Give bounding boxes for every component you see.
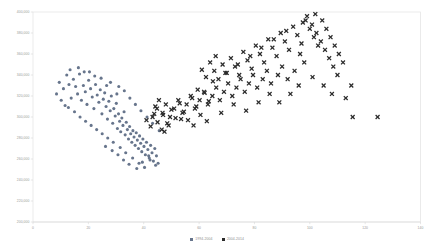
data-point (112, 141, 115, 144)
data-point (99, 88, 102, 91)
data-point (74, 85, 77, 88)
data-point (141, 161, 144, 164)
data-point (124, 133, 127, 136)
data-point (135, 131, 138, 134)
data-point (138, 134, 141, 137)
data-point (110, 94, 113, 97)
data-point (76, 92, 79, 95)
data-point (127, 163, 130, 166)
data-point (147, 154, 150, 157)
data-point (84, 120, 87, 123)
data-point (117, 112, 120, 115)
data-point (145, 141, 148, 144)
data-point (143, 166, 146, 169)
x-axis-tick-label: 40 (142, 226, 146, 230)
data-point (126, 128, 129, 131)
data-point (77, 66, 80, 69)
data-point (150, 151, 153, 154)
legend-swatch-icon (190, 238, 193, 241)
data-point (128, 125, 131, 128)
x-axis-tick-label: 60 (197, 226, 201, 230)
data-point (115, 102, 118, 105)
data-point (89, 87, 92, 90)
data-point (73, 110, 76, 113)
data-point (142, 145, 145, 148)
data-point (84, 90, 87, 93)
data-point (139, 142, 142, 145)
data-point (72, 78, 75, 81)
data-point (151, 122, 154, 125)
data-point (111, 122, 114, 125)
x-axis-tick-label: 80 (252, 226, 256, 230)
x-axis-tick-label: 0 (32, 226, 34, 230)
y-axis-tick-label: 400,000 (17, 10, 30, 14)
data-point (101, 132, 104, 135)
y-axis-tick-label: 340,000 (17, 73, 30, 77)
x-axis-tick-label: 20 (86, 226, 90, 230)
data-point (104, 145, 107, 148)
data-point (119, 130, 122, 133)
data-point (154, 164, 157, 167)
data-point (94, 83, 97, 86)
data-point (93, 75, 96, 78)
data-point (87, 79, 90, 82)
data-point (111, 149, 114, 152)
data-point (62, 87, 65, 90)
plot-canvas: 200,000220,000240,000260,000280,000300,0… (0, 0, 434, 251)
data-point (106, 118, 109, 121)
data-point (132, 135, 135, 138)
data-point (109, 109, 112, 112)
legend-swatch-icon (222, 238, 225, 241)
data-point (123, 110, 126, 113)
data-point (83, 70, 86, 73)
data-point (65, 73, 68, 76)
y-axis-tick-label: 200,000 (17, 220, 30, 224)
data-point (97, 101, 100, 104)
data-point (127, 138, 130, 141)
data-point (130, 141, 133, 144)
data-point (119, 146, 122, 149)
y-axis-tick-label: 240,000 (17, 178, 30, 182)
data-point (105, 105, 108, 108)
data-point (116, 153, 119, 156)
data-point (60, 99, 63, 102)
data-point (137, 147, 140, 150)
legend-label: 2004-2014 (227, 238, 244, 242)
y-axis-tick-label: 380,000 (17, 31, 30, 35)
data-point (58, 81, 61, 84)
legend-item-0[interactable]: 1994-2004 (190, 238, 213, 242)
data-point (67, 106, 70, 109)
data-point (88, 70, 91, 73)
data-point (69, 68, 72, 71)
data-point (79, 115, 82, 118)
x-axis-tick-label: 120 (362, 226, 368, 230)
data-point (121, 124, 124, 127)
data-point (134, 103, 137, 106)
data-point (64, 104, 67, 107)
data-point (136, 139, 139, 142)
data-point (103, 91, 106, 94)
data-point (157, 162, 160, 165)
data-point (117, 85, 120, 88)
data-point (67, 83, 70, 86)
y-axis-tick-label: 360,000 (17, 52, 30, 56)
data-point (96, 93, 99, 96)
legend-item-1[interactable]: 2004-2014 (222, 238, 245, 242)
y-axis-tick-label: 300,000 (17, 115, 30, 119)
data-point (122, 159, 125, 162)
data-point (140, 150, 143, 153)
data-point (55, 92, 58, 95)
data-point (92, 107, 95, 110)
data-point (95, 128, 98, 131)
data-point (91, 96, 94, 99)
data-point (153, 147, 156, 150)
data-point (85, 103, 88, 106)
data-point (70, 97, 73, 100)
data-point (141, 138, 144, 141)
data-point (118, 120, 121, 123)
data-point (112, 107, 115, 110)
chart-legend: 1994-20042004-2014 (0, 235, 434, 244)
data-point (100, 112, 103, 115)
x-axis-tick-label: 100 (307, 226, 313, 230)
y-axis-tick-label: 220,000 (17, 199, 30, 203)
